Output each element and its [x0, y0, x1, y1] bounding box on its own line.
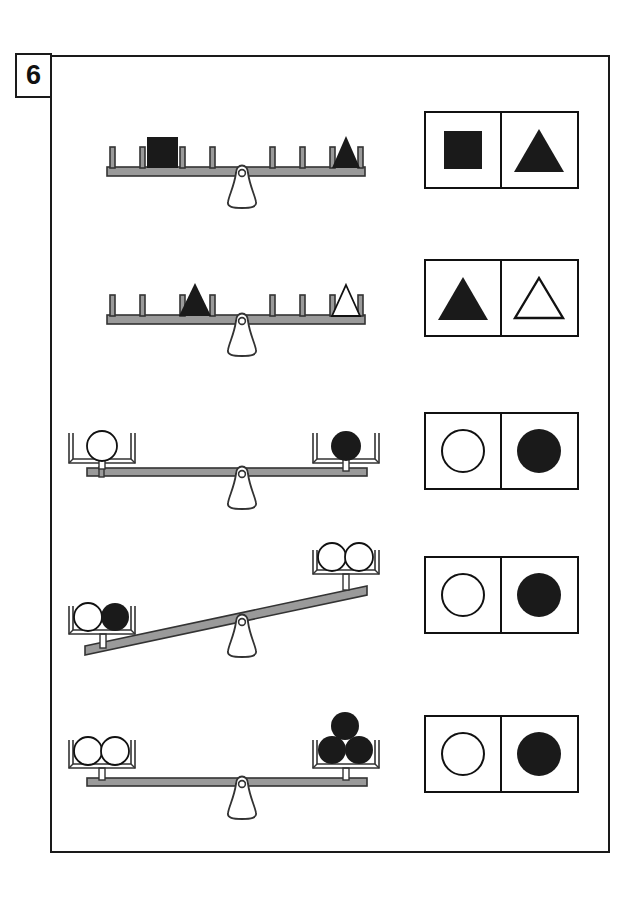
shape-square-black [147, 137, 178, 168]
shape-circle-white [74, 603, 102, 631]
answer-shape-triangle-black [514, 129, 564, 172]
answer-shape-circle-black [517, 429, 561, 473]
answer-box-row-1 [424, 111, 579, 189]
balance-scene-2 [52, 255, 392, 405]
answer-cell-right-3 [502, 414, 578, 488]
pivot-hole [239, 318, 246, 325]
shape-circle-black [318, 736, 346, 764]
answer-cell-left-3 [426, 414, 502, 488]
shape-circle-white [74, 737, 102, 765]
answer-shape-circle-white [441, 429, 485, 473]
worksheet-frame [50, 55, 610, 853]
answer-box-row-4 [424, 556, 579, 634]
answer-shape-square-black [444, 131, 482, 169]
shape-triangle-white [332, 285, 360, 316]
answer-shape-circle-white [441, 732, 485, 776]
answer-cell-left-4 [426, 558, 502, 632]
answer-cell-right-5 [502, 717, 578, 791]
shape-circle-black [331, 712, 359, 740]
shape-circle-white [345, 543, 373, 571]
tray-right [313, 543, 379, 590]
answer-cell-left-2 [426, 261, 502, 335]
answer-cell-left-5 [426, 717, 502, 791]
balance-scale-tray-level-3 [52, 402, 392, 532]
answer-box-row-5 [424, 715, 579, 793]
answer-shape-triangle-black [438, 277, 488, 320]
puzzle-row-5 [52, 702, 612, 852]
shape-circle-black [331, 431, 361, 461]
tray-right [313, 712, 379, 780]
worksheet-page: 6 [0, 0, 636, 903]
exercise-number: 6 [26, 62, 41, 89]
puzzle-row-1 [52, 107, 612, 257]
pivot-hole [239, 170, 246, 177]
shape-circle-white [87, 431, 117, 461]
balance-scale-tray-level-5 [52, 702, 392, 842]
answer-box-row-3 [424, 412, 579, 490]
tray-right [313, 431, 379, 471]
answer-shape-triangle-white [512, 275, 566, 321]
answer-shape-circle-white [441, 573, 485, 617]
shape-triangle-black [332, 136, 360, 168]
puzzle-row-2 [52, 255, 612, 405]
answer-shape-circle-black [517, 732, 561, 776]
balance-scene-3 [52, 402, 392, 552]
exercise-number-box: 6 [15, 53, 52, 98]
answer-cell-right-2 [502, 261, 578, 335]
balance-scene-5 [52, 702, 392, 852]
balance-beam [87, 778, 367, 786]
pivot-hole [239, 781, 246, 788]
answer-shape-circle-black [517, 573, 561, 617]
answer-cell-left-1 [426, 113, 502, 187]
puzzle-row-3 [52, 402, 612, 552]
balance-beam [87, 468, 367, 476]
beam-pegs [110, 295, 363, 316]
balance-scale-pegged-level-1 [52, 107, 392, 237]
balance-scene-4 [52, 550, 392, 700]
tray-left [69, 737, 135, 780]
pivot-hole [239, 619, 246, 626]
pivot-hole [239, 471, 246, 478]
balance-scale-tray-tilt-left-4 [52, 550, 392, 690]
answer-box-row-2 [424, 259, 579, 337]
answer-cell-right-1 [502, 113, 578, 187]
shape-circle-black [345, 736, 373, 764]
balance-scene-1 [52, 107, 392, 257]
shape-circle-white [101, 737, 129, 765]
balance-scale-pegged-level-2 [52, 255, 392, 385]
answer-cell-right-4 [502, 558, 578, 632]
puzzle-row-4 [52, 550, 612, 700]
shape-circle-white [318, 543, 346, 571]
shape-circle-black [101, 603, 129, 631]
